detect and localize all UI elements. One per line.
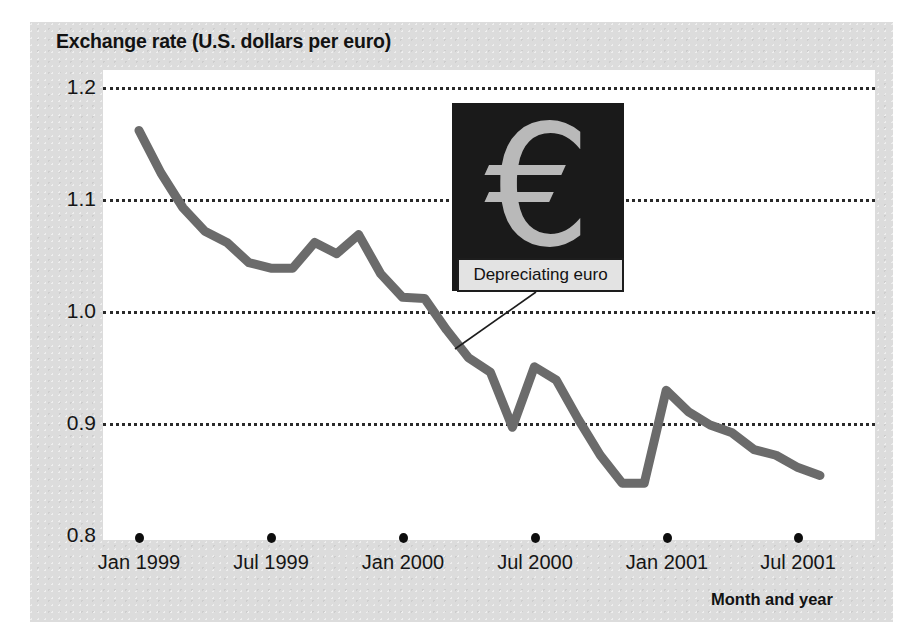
euro-icon: € [452, 93, 624, 281]
y-axis-tick-1.0: 1.0 [30, 299, 96, 323]
x-axis-tick-dot-jul-1999 [267, 533, 276, 543]
depreciating-euro-caption: Depreciating euro [457, 258, 624, 292]
x-axis-label-jul-1999: Jul 1999 [233, 551, 309, 574]
y-axis-tick-0.9: 0.9 [30, 411, 96, 435]
y-axis-tick-1.1: 1.1 [30, 187, 96, 211]
x-axis-label-jan-1999: Jan 1999 [98, 551, 180, 574]
x-axis-label-jul-2000: Jul 2000 [497, 551, 573, 574]
chart-title: Exchange rate (U.S. dollars per euro) [56, 30, 391, 53]
x-axis-label-jul-2001: Jul 2001 [760, 551, 836, 574]
x-axis-title: Month and year [711, 590, 833, 609]
x-axis-tick-dot-jan-2000 [399, 533, 408, 543]
x-axis-tick-dot-jul-2000 [531, 533, 540, 543]
gridline-1.0 [103, 311, 875, 314]
x-axis-tick-dot-jan-2001 [663, 533, 672, 543]
y-axis-tick-1.2: 1.2 [30, 75, 96, 99]
gridline-0.9 [103, 423, 875, 426]
x-axis-label-jan-2001: Jan 2001 [626, 551, 708, 574]
x-axis-tick-dot-jan-1999 [135, 533, 144, 543]
x-axis-label-jan-2000: Jan 2000 [362, 551, 444, 574]
x-axis-tick-dot-jul-2001 [794, 533, 803, 543]
chart-figure: Exchange rate (U.S. dollars per euro) 1.… [0, 0, 920, 642]
y-axis-tick-0.8: 0.8 [30, 523, 96, 547]
